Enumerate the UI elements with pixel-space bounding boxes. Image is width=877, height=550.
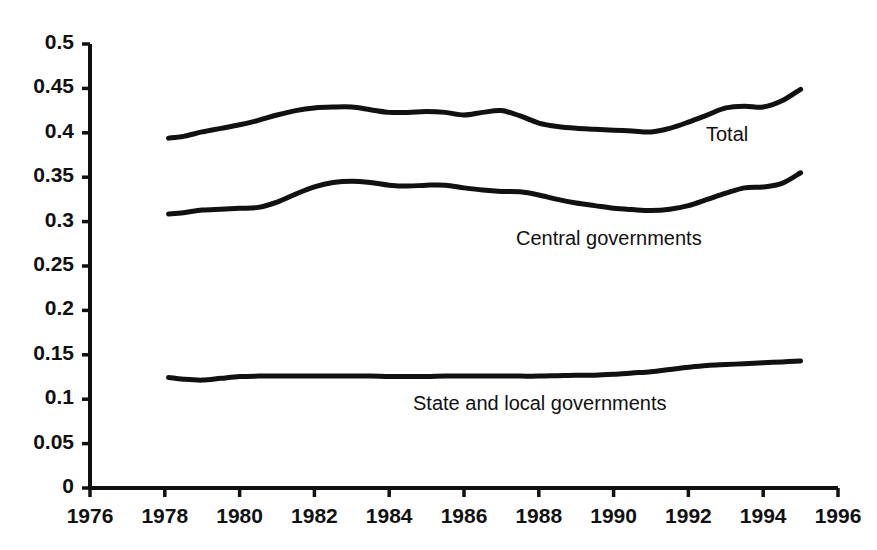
y-axis-tick-label: 0.2 [0,296,74,320]
y-axis-tick-label: 0 [0,474,74,498]
y-axis-tick-label: 0.15 [0,341,74,365]
x-axis-tick-label: 1996 [793,504,877,528]
y-axis-tick-label: 0.35 [0,163,74,187]
y-axis-tick-label: 0.45 [0,74,74,98]
series-label-state-and-local-governments: State and local governments [413,392,667,415]
y-axis-tick-label: 0.05 [0,430,74,454]
series-line-central-governments [169,173,801,214]
series-line-state-and-local-governments [169,361,801,380]
y-axis-tick-label: 0.1 [0,385,74,409]
y-axis-tick-label: 0.5 [0,30,74,54]
chart-axes [90,44,838,488]
chart-container: 00.050.10.150.20.250.30.350.40.450.5 197… [0,0,877,550]
series-label-total: Total [706,123,748,146]
y-axis-tick-label: 0.4 [0,119,74,143]
y-axis-tick-label: 0.25 [0,252,74,276]
y-axis-tick-label: 0.3 [0,208,74,232]
chart-plot-area [0,0,877,550]
series-label-central-governments: Central governments [516,227,702,250]
